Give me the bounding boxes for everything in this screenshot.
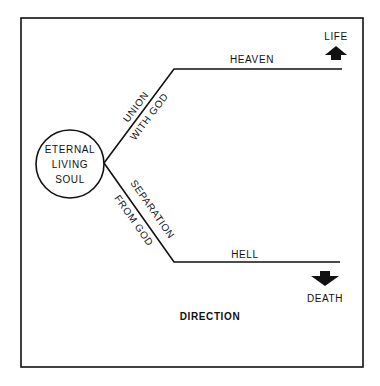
hell-label: HELL bbox=[231, 249, 258, 260]
soul-direction-diagram: ETERNAL LIVING SOUL UNION WITH GOD HEAVE… bbox=[0, 0, 380, 386]
soul-label-line2: LIVING bbox=[52, 159, 88, 170]
union-path-line bbox=[104, 69, 342, 163]
life-label: LIFE bbox=[324, 31, 348, 42]
soul-label-line1: ETERNAL bbox=[45, 144, 95, 155]
soul-label-line3: SOUL bbox=[55, 174, 85, 185]
separation-path-line bbox=[104, 163, 340, 262]
heaven-label: HEAVEN bbox=[230, 54, 274, 65]
direction-label: DIRECTION bbox=[180, 311, 240, 322]
down-arrow-icon bbox=[311, 271, 339, 286]
death-label: DEATH bbox=[307, 293, 343, 304]
up-arrow-icon bbox=[325, 46, 347, 60]
